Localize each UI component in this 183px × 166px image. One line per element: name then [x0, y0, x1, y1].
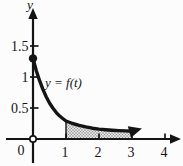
plot-canvas: 12340.511.5 — [0, 0, 183, 166]
x-tick-label: 3 — [128, 145, 135, 160]
x-tick-label: 4 — [161, 145, 168, 160]
curve — [33, 58, 132, 131]
origin-open-circle — [30, 136, 36, 142]
function-plot-figure: 12340.511.5 y y = f(t) 0 — [0, 0, 183, 166]
origin-tick-label: 0 — [15, 144, 27, 158]
y-tick-label: 1.5 — [11, 39, 29, 54]
x-tick-label: 1 — [62, 145, 69, 160]
x-tick-label: 2 — [95, 145, 102, 160]
y-tick-label: 1 — [22, 70, 29, 85]
curve-start-dot — [29, 54, 37, 62]
y-axis-letter: y — [27, 0, 33, 12]
y-tick-label: 0.5 — [11, 101, 29, 116]
curve-label: y = f(t) — [45, 76, 82, 89]
x-axis-arrow — [170, 134, 181, 143]
